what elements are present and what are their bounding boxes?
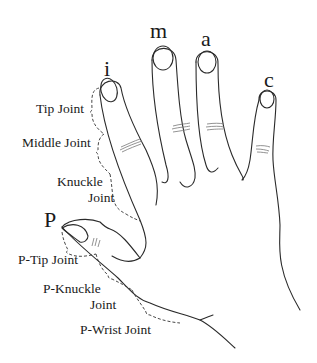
p-knuckle-joint-bracket <box>96 254 132 290</box>
ring-nail <box>198 51 216 73</box>
little-finger-outline <box>259 91 300 310</box>
little-nail <box>260 90 274 108</box>
middle-joint-bracket <box>97 134 111 174</box>
finger-label-thumb: P <box>44 209 56 231</box>
ring-finger-left-edge <box>196 62 218 172</box>
finger-label-ring: a <box>201 28 211 50</box>
p-knuckle-joint-label-line2: Joint <box>90 298 116 312</box>
index-finger-left-edge <box>100 95 146 261</box>
knuckle-creases <box>92 123 270 247</box>
knuckle-joint-bracket <box>110 174 140 221</box>
middle-finger-left-edge <box>152 60 168 183</box>
p-wrist-joint-label: P-Wrist Joint <box>80 323 151 337</box>
hand-outline-drawing <box>0 0 317 363</box>
index-finger-outline <box>100 81 158 205</box>
middle-nail <box>153 46 173 70</box>
p-knuckle-joint-label-line1: P-Knuckle <box>43 282 101 296</box>
finger-label-index: i <box>104 58 110 80</box>
knuckle-joint-label-line2: Joint <box>88 191 114 205</box>
p-wrist-joint-bracket <box>132 290 180 323</box>
tip-joint-label: Tip Joint <box>36 102 84 116</box>
hand-diagram: i m a c P Tip Joint Middle Joint Knuckle… <box>0 0 317 363</box>
wrist-line <box>200 315 213 320</box>
ring-finger-outline <box>196 52 243 180</box>
p-tip-joint-label: P-Tip Joint <box>18 253 78 267</box>
middle-joint-label: Middle Joint <box>22 136 91 150</box>
finger-label-little: c <box>264 69 274 91</box>
finger-label-middle: m <box>150 20 167 42</box>
knuckle-joint-label-line1: Knuckle <box>57 175 103 189</box>
little-finger-left-edge <box>242 100 259 180</box>
